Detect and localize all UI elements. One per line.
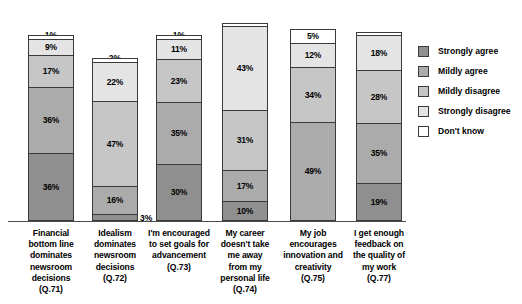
segment-strongly-disagree-1[interactable]: 9% xyxy=(29,40,73,57)
segment-label: 9% xyxy=(45,43,57,52)
segment-mildly-disagree-5[interactable]: 34% xyxy=(291,68,335,123)
segment-dont-know-5[interactable]: 5% xyxy=(291,30,335,44)
axis-label-line: innovation and xyxy=(276,250,350,261)
segment-label: 28% xyxy=(371,93,387,102)
segment-mildly-disagree-6[interactable]: 28% xyxy=(357,71,401,124)
segment-label: 10% xyxy=(237,207,253,216)
segment-mildly-agree-3[interactable]: 35% xyxy=(157,103,201,165)
segment-strongly-disagree-3[interactable]: 11% xyxy=(157,40,201,60)
plot-area: 1% 9% 17% 36% 36% 2% 2 xyxy=(0,0,410,226)
axis-label-career-personal-life: My career doesn't take me away from my p… xyxy=(208,228,282,295)
axis-label-line: creativity xyxy=(276,262,350,273)
axis-label-line: my work xyxy=(342,262,416,273)
segment-strongly-agree-2[interactable] xyxy=(93,215,137,220)
axis-label-encouraged-set-goals: I'm encouraged to set goals for advancem… xyxy=(142,228,216,273)
segment-label: 17% xyxy=(43,67,59,76)
legend-item-mildly-agree[interactable]: Mildly agree xyxy=(418,61,522,81)
segment-strongly-disagree-6[interactable]: 18% xyxy=(357,36,401,71)
segment-strongly-disagree-5[interactable]: 12% xyxy=(291,44,335,68)
segment-label: 23% xyxy=(171,77,187,86)
segment-mildly-agree-2[interactable]: 16% xyxy=(93,187,137,215)
segment-strongly-agree-6[interactable]: 19% xyxy=(357,184,401,220)
segment-mildly-disagree-1[interactable]: 17% xyxy=(29,56,73,88)
segment-label: 36% xyxy=(43,183,59,192)
axis-label-line: (Q.72) xyxy=(78,273,152,284)
segment-mildly-agree-5[interactable]: 49% xyxy=(291,123,335,220)
segment-label: 18% xyxy=(371,49,387,58)
axis-label-line: decisions xyxy=(14,273,88,284)
segment-strongly-disagree-2[interactable]: 22% xyxy=(93,63,137,102)
segment-label: 5% xyxy=(307,32,319,41)
bar-job-innovation-creativity[interactable]: 5% 12% 34% 49% xyxy=(290,29,336,221)
bar-idealism-dominates[interactable]: 22% 47% 16% xyxy=(92,58,138,221)
bar-encouraged-set-goals[interactable]: 11% 23% 35% 30% xyxy=(156,35,202,221)
stacked-bar-chart: 1% 9% 17% 36% 36% 2% 2 xyxy=(0,0,522,304)
legend-item-dont-know[interactable]: Don't know xyxy=(418,121,522,141)
axis-label-line: bottom line xyxy=(14,239,88,250)
segment-label: 34% xyxy=(305,91,321,100)
segment-label: 35% xyxy=(171,129,187,138)
x-axis-baseline xyxy=(8,221,406,222)
axis-label-line: I'm encouraged xyxy=(142,228,216,239)
segment-label: 47% xyxy=(107,140,123,149)
axis-label-line: me away xyxy=(208,250,282,261)
segment-strongly-agree-4[interactable]: 10% xyxy=(223,202,267,220)
segment-mildly-disagree-3[interactable]: 23% xyxy=(157,60,201,103)
segment-strongly-agree-3[interactable]: 30% xyxy=(157,165,201,220)
axis-label-line: feedback on xyxy=(342,239,416,250)
segment-mildly-agree-4[interactable]: 17% xyxy=(223,171,267,202)
axis-label-line: advancement xyxy=(142,250,216,261)
axis-label-line: doesn't take xyxy=(208,239,282,250)
legend-label: Strongly agree xyxy=(438,46,498,56)
segment-strongly-agree-1[interactable]: 36% xyxy=(29,154,73,220)
axis-label-line: encourages xyxy=(276,239,350,250)
legend-item-mildly-disagree[interactable]: Mildly disagree xyxy=(418,81,522,101)
axis-label-line: My job xyxy=(276,228,350,239)
bar-enough-feedback[interactable]: 18% 28% 35% 19% xyxy=(356,32,402,221)
axis-label-line: decisions xyxy=(78,262,152,273)
axis-label-idealism-dominates: Idealism dominates newsroom decisions (Q… xyxy=(78,228,152,284)
axis-label-line: dominates xyxy=(78,239,152,250)
axis-label-line: the quality of xyxy=(342,250,416,261)
segment-label: 17% xyxy=(237,182,253,191)
segment-mildly-disagree-2[interactable]: 47% xyxy=(93,102,137,187)
segment-label: 35% xyxy=(371,149,387,158)
segment-label: 30% xyxy=(171,188,187,197)
bar-career-personal-life[interactable]: 43% 31% 17% 10% xyxy=(222,23,268,221)
bar-financial-bottom-line[interactable]: 9% 17% 36% 36% xyxy=(28,35,74,221)
segment-label: 49% xyxy=(305,167,321,176)
segment-label: 11% xyxy=(171,45,187,54)
axis-label-line: newsroom xyxy=(14,262,88,273)
segment-label: 36% xyxy=(43,116,59,125)
axis-label-line: Idealism xyxy=(78,228,152,239)
axis-label-line: personal life xyxy=(208,273,282,284)
legend-swatch-icon xyxy=(418,46,429,57)
segment-label: 22% xyxy=(107,78,123,87)
axis-label-enough-feedback: I get enough feedback on the quality of … xyxy=(342,228,416,284)
legend-swatch-icon xyxy=(418,66,429,77)
axis-label-line: I get enough xyxy=(342,228,416,239)
segment-label: 19% xyxy=(371,198,387,207)
legend-item-strongly-agree[interactable]: Strongly agree xyxy=(418,41,522,61)
segment-label: 43% xyxy=(237,64,253,73)
axis-label-line: to set goals for xyxy=(142,239,216,250)
axis-label-line: Financial xyxy=(14,228,88,239)
axis-label-line: (Q.73) xyxy=(142,262,216,273)
axis-label-financial-bottom-line: Financial bottom line dominates newsroom… xyxy=(14,228,88,295)
axis-label-line: from my xyxy=(208,262,282,273)
segment-label: 16% xyxy=(107,196,123,205)
segment-mildly-agree-6[interactable]: 35% xyxy=(357,124,401,184)
axis-label-line: (Q.71) xyxy=(14,284,88,295)
segment-mildly-agree-1[interactable]: 36% xyxy=(29,88,73,154)
segment-mildly-disagree-4[interactable]: 31% xyxy=(223,111,267,171)
legend-item-strongly-disagree[interactable]: Strongly disagree xyxy=(418,101,522,121)
legend-swatch-icon xyxy=(418,126,429,137)
axis-label-line: (Q.75) xyxy=(276,273,350,284)
axis-label-line: newsroom xyxy=(78,250,152,261)
segment-label: 12% xyxy=(305,51,321,60)
segment-strongly-disagree-4[interactable]: 43% xyxy=(223,27,267,111)
legend-label: Strongly disagree xyxy=(438,106,511,116)
legend-label: Don't know xyxy=(438,126,484,136)
legend-label: Mildly agree xyxy=(438,66,488,76)
axis-label-line: My career xyxy=(208,228,282,239)
